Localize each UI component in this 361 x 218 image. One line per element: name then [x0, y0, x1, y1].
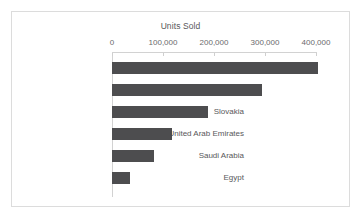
bar-row[interactable]	[112, 167, 317, 189]
chart-title: Units Sold	[12, 21, 349, 31]
x-tick-label: 300,000	[251, 38, 280, 47]
x-tick-mark	[265, 53, 266, 56]
bar[interactable]	[112, 172, 130, 184]
x-tick-mark	[163, 53, 164, 56]
x-tick-label: 200,000	[200, 38, 229, 47]
bar[interactable]	[112, 106, 208, 118]
x-tick-mark	[112, 53, 113, 56]
chart-frame: Units Sold 0100,000200,000300,000400,000…	[11, 11, 350, 207]
x-tick-label: 400,000	[302, 38, 331, 47]
x-tick-label: 100,000	[149, 38, 178, 47]
bar[interactable]	[112, 128, 172, 140]
x-tick-label: 0	[110, 38, 114, 47]
x-tick-mark	[214, 53, 215, 56]
bar[interactable]	[112, 150, 154, 162]
bar[interactable]	[112, 62, 318, 74]
x-tick-mark	[316, 53, 317, 56]
bar[interactable]	[112, 84, 262, 96]
